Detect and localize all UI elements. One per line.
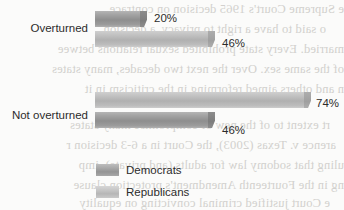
value-label-overturned-democrats: 20% [154, 12, 177, 24]
bar-body [95, 11, 140, 27]
bar-body [95, 92, 304, 108]
bar-chart-figure: e Supreme Court's 1965 decision on contr… [0, 0, 344, 210]
bar-not-overturned-democrats [95, 112, 215, 128]
legend-label-democrats: Democrats [126, 164, 182, 176]
legend-swatch-republicans [96, 186, 119, 198]
legend-label-republicans: Republicans [126, 186, 189, 198]
bar-overturned-democrats [95, 11, 147, 27]
value-label-not-overturned-democrats: 46% [222, 124, 245, 136]
bar-not-overturned-republicans [95, 92, 311, 108]
value-label-overturned-republicans: 46% [222, 37, 245, 49]
category-label-not-overturned: Not overturned [0, 109, 88, 121]
bar-overturned-republicans [95, 31, 215, 47]
bar-end-cap [304, 92, 311, 108]
legend-item-republicans: Republicans [96, 186, 189, 198]
bar-end-cap [140, 11, 147, 27]
bar-end-cap [208, 31, 215, 47]
legend-swatch-democrats [96, 164, 119, 176]
legend-item-democrats: Democrats [96, 164, 182, 176]
category-label-overturned: Overturned [0, 22, 88, 34]
bar-body [95, 31, 208, 47]
value-label-not-overturned-republicans: 74% [316, 97, 339, 109]
chart-plot-area: Overturned 20% 46% Not overturned 74% 46… [0, 0, 344, 210]
bar-body [95, 112, 208, 128]
bar-end-cap [208, 112, 215, 128]
